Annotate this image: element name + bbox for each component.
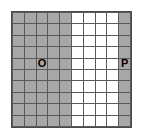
grid-cell <box>119 35 131 46</box>
grid-cell <box>36 13 48 24</box>
grid-cell <box>83 58 95 69</box>
grid-cell <box>119 92 131 103</box>
grid-cell <box>83 24 95 35</box>
grid-cell <box>24 58 36 69</box>
grid-cell <box>24 115 36 126</box>
grid-cell <box>107 13 119 24</box>
grid-cell <box>60 81 72 92</box>
grid-cell <box>60 69 72 80</box>
grid-cell <box>83 81 95 92</box>
grid-row <box>13 13 131 24</box>
grid-cell <box>13 115 25 126</box>
grid-cell <box>24 24 36 35</box>
grid-cell <box>95 104 107 115</box>
grid-cell <box>71 92 83 103</box>
grid-cell <box>119 115 131 126</box>
grid-cell <box>48 81 60 92</box>
grid-cell <box>95 58 107 69</box>
grid-cell <box>24 69 36 80</box>
grid-cell <box>119 69 131 80</box>
grid-cell <box>107 69 119 80</box>
grid-cell <box>48 13 60 24</box>
grid-cell <box>24 35 36 46</box>
grid-cell <box>119 13 131 24</box>
grid-cell <box>48 24 60 35</box>
grid-cell <box>60 47 72 58</box>
grid-cell <box>24 13 36 24</box>
grid-cell <box>71 47 83 58</box>
grid-cell <box>95 47 107 58</box>
grid-cell <box>36 81 48 92</box>
grid-cell <box>24 92 36 103</box>
grid-cell <box>107 24 119 35</box>
grid-body: OP <box>13 13 131 127</box>
grid-cell <box>107 58 119 69</box>
cell-label-o: O <box>37 59 48 69</box>
grid-cell <box>13 92 25 103</box>
grid-cell <box>36 92 48 103</box>
grid-row <box>13 35 131 46</box>
grid-cell <box>83 115 95 126</box>
grid-cell <box>71 24 83 35</box>
grid-row <box>13 47 131 58</box>
grid-cell <box>36 69 48 80</box>
grid-cell <box>13 104 25 115</box>
grid-cell <box>13 13 25 24</box>
grid-cell <box>24 47 36 58</box>
grid-cell <box>71 81 83 92</box>
grid-cell <box>71 58 83 69</box>
grid-cell <box>13 35 25 46</box>
grid-cell <box>48 92 60 103</box>
grid-cell <box>107 115 119 126</box>
grid-row <box>13 115 131 126</box>
grid-cell <box>60 58 72 69</box>
grid-cell <box>83 35 95 46</box>
grid-cell <box>83 104 95 115</box>
grid-cell <box>119 81 131 92</box>
grid-cell <box>36 24 48 35</box>
grid-cell <box>83 13 95 24</box>
grid-cell <box>107 81 119 92</box>
grid-cell <box>48 69 60 80</box>
grid-cell <box>95 69 107 80</box>
grid-cell <box>24 81 36 92</box>
grid-cell <box>71 13 83 24</box>
grid-cell <box>13 47 25 58</box>
grid-cell <box>119 104 131 115</box>
grid-cell <box>48 115 60 126</box>
grid-cell: O <box>36 58 48 69</box>
grid-row <box>13 104 131 115</box>
grid-cell <box>95 35 107 46</box>
grid-row <box>13 69 131 80</box>
grid-cell <box>71 104 83 115</box>
grid-cell <box>48 58 60 69</box>
grid-cell <box>95 24 107 35</box>
grid-cell <box>36 35 48 46</box>
grid-cell <box>48 104 60 115</box>
grid-cell <box>107 47 119 58</box>
grid-cell <box>60 24 72 35</box>
cell-label-p: P <box>119 59 130 69</box>
grid-cell: P <box>119 58 131 69</box>
grid-cell <box>71 69 83 80</box>
grid-cell <box>48 47 60 58</box>
grid-cell <box>60 35 72 46</box>
grid-cell <box>119 24 131 35</box>
grid-row: OP <box>13 58 131 69</box>
grid-cell <box>107 104 119 115</box>
grid-cell <box>71 35 83 46</box>
grid-cell <box>36 104 48 115</box>
grid-cell <box>13 58 25 69</box>
grid-cell <box>13 81 25 92</box>
grid-cell <box>83 69 95 80</box>
grid-cell <box>95 13 107 24</box>
grid-cell <box>60 13 72 24</box>
grid-cell <box>95 81 107 92</box>
grid-row <box>13 92 131 103</box>
shaded-grid-diagram: OP <box>11 11 132 128</box>
grid-cell <box>13 24 25 35</box>
grid-cell <box>95 115 107 126</box>
grid-cell <box>60 92 72 103</box>
grid-cell <box>83 47 95 58</box>
grid-cell <box>24 104 36 115</box>
